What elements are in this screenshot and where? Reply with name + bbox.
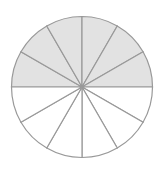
fraction-circle: [0, 0, 165, 171]
sector-group: [12, 17, 153, 158]
figure-canvas: [0, 0, 165, 171]
